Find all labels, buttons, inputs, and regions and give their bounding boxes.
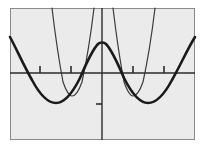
plot-canvas: [0, 0, 204, 148]
graph-figure: [0, 0, 204, 148]
